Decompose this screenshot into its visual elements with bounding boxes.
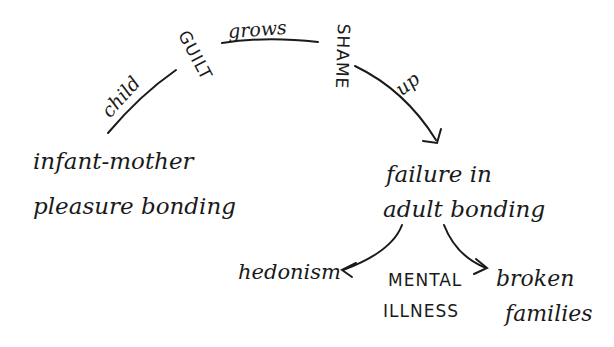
node-mental: MENTAL — [388, 272, 462, 289]
node-hedonism: hedonism — [238, 262, 341, 283]
node-broken: broken — [496, 268, 574, 290]
node-failure-in: failure in — [386, 163, 492, 186]
hedonism-arrow — [343, 225, 402, 270]
diagram-canvas: infant-mother pleasure bonding child GUI… — [0, 0, 614, 347]
node-adult-bonding: adult bonding — [383, 198, 545, 221]
label-grows: grows — [227, 18, 287, 41]
node-illness: ILLNESS — [383, 303, 459, 320]
up-arrowhead — [423, 129, 441, 143]
label-shame: SHAME — [333, 23, 352, 89]
node-infant-mother: infant-mother — [33, 150, 194, 173]
node-families: families — [505, 303, 593, 325]
node-pleasure-bonding: pleasure bonding — [33, 195, 236, 218]
hedonism-arrowhead — [342, 263, 356, 277]
